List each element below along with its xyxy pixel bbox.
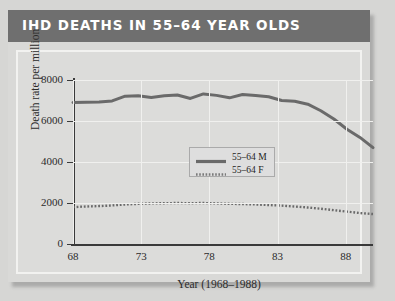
series-line [73, 203, 373, 214]
plot-area: Death rate per million Year (1968–1988) … [65, 72, 373, 252]
y-gridline [73, 121, 373, 122]
legend-swatch-solid-icon [195, 152, 227, 161]
legend-label-female: 55–64 F [232, 165, 263, 175]
chart-card: IHD DEATHS IN 55–64 YEAR OLDS Death rate… [8, 10, 370, 282]
chart-panel: Death rate per million Year (1968–1988) … [16, 50, 362, 274]
y-gridline [73, 80, 373, 81]
legend-entry-male: 55–64 M [195, 150, 267, 163]
legend-swatch-dashed-icon [195, 165, 227, 174]
y-tick-label: 2000 [25, 196, 63, 208]
x-tick-label: 68 [53, 250, 93, 262]
y-tick-mark [67, 203, 73, 204]
x-axis-line [71, 244, 373, 246]
y-tick-label: 8000 [25, 73, 63, 85]
y-tick-label: 6000 [25, 114, 63, 126]
legend-entry-female: 55–64 F [195, 163, 263, 176]
x-tick-label: 88 [326, 250, 366, 262]
legend-label-male: 55–64 M [232, 152, 267, 162]
x-tick-label: 83 [258, 250, 298, 262]
chart-legend: 55–64 M 55–64 F [189, 147, 275, 177]
x-axis-title: Year (1968–1988) [65, 278, 373, 290]
y-tick-mark [67, 80, 73, 81]
page-title: IHD DEATHS IN 55–64 YEAR OLDS [22, 17, 301, 33]
y-gridline [73, 203, 373, 204]
x-tick-label: 73 [121, 250, 161, 262]
y-tick-label: 0 [25, 237, 63, 249]
y-tick-mark [67, 244, 73, 245]
x-tick-label: 78 [189, 250, 229, 262]
y-tick-mark [67, 121, 73, 122]
chart-title-bar: IHD DEATHS IN 55–64 YEAR OLDS [8, 10, 370, 42]
screenshot-root: IHD DEATHS IN 55–64 YEAR OLDS Death rate… [0, 0, 395, 301]
y-tick-mark [67, 162, 73, 163]
y-tick-label: 4000 [25, 155, 63, 167]
